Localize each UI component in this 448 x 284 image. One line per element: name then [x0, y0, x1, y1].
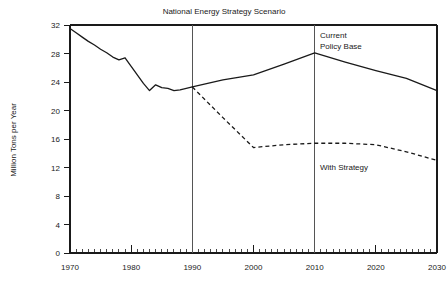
y-tick-label-28: 28	[51, 50, 60, 59]
chart-figure: National Energy Strategy Scenario Millio…	[0, 0, 448, 284]
y-tick-label-16: 16	[51, 135, 60, 144]
y-tick-label-12: 12	[51, 164, 60, 173]
x-tick-label-1970: 1970	[61, 263, 79, 272]
y-tick-label-20: 20	[51, 107, 60, 116]
y-tick-label-8: 8	[56, 192, 61, 201]
y-axis-title: Million Tons per Year	[9, 103, 18, 177]
x-tick-label-2020: 2020	[367, 263, 385, 272]
chart-title: National Energy Strategy Scenario	[163, 7, 286, 16]
x-tick-label-2000: 2000	[245, 263, 263, 272]
x-tick-label-2010: 2010	[306, 263, 324, 272]
y-tick-label-0: 0	[56, 249, 61, 258]
x-tick-label-1990: 1990	[183, 263, 201, 272]
y-tick-label-24: 24	[51, 78, 60, 87]
x-tick-label-1980: 1980	[122, 263, 140, 272]
y-tick-label-32: 32	[51, 21, 60, 30]
y-tick-label-4: 4	[56, 221, 61, 230]
annotation-with-strategy: With Strategy	[320, 163, 368, 172]
annotation-current: Current	[320, 31, 347, 40]
chart-canvas: National Energy Strategy Scenario Millio…	[0, 0, 448, 284]
x-tick-label-2030: 2030	[428, 263, 446, 272]
annotation-policy-base: Policy Base	[320, 42, 362, 51]
chart-background	[0, 0, 448, 284]
